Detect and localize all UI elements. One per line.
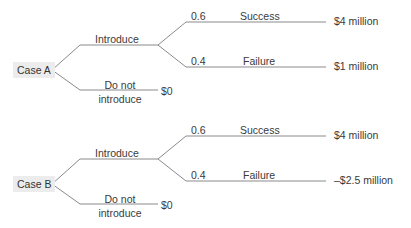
prob-success-a: 0.6 bbox=[191, 10, 206, 22]
do-not-label-a: Do not bbox=[95, 79, 145, 91]
failure-label-a: Failure bbox=[243, 55, 275, 67]
payoff-failure-a: $1 million bbox=[334, 60, 378, 72]
payoff-success-b: $4 million bbox=[334, 129, 378, 141]
introduce-branch-label-b: Introduce bbox=[95, 147, 139, 159]
prob-failure-a: 0.4 bbox=[191, 55, 206, 67]
introduce-label-a: introduce bbox=[95, 93, 145, 105]
introduce-branch-label-a: Introduce bbox=[95, 33, 139, 45]
case-a-node: Case A bbox=[13, 62, 55, 78]
prob-failure-b: 0.4 bbox=[191, 169, 206, 181]
payoff-success-a: $4 million bbox=[334, 15, 378, 27]
prob-success-b: 0.6 bbox=[191, 124, 206, 136]
decision-tree-lines bbox=[0, 0, 411, 228]
payoff-failure-b: –$2.5 million bbox=[334, 174, 393, 186]
introduce-label-b: introduce bbox=[95, 207, 145, 219]
case-b-node: Case B bbox=[13, 176, 55, 192]
payoff-do-not-a: $0 bbox=[161, 85, 173, 97]
do-not-label-b: Do not bbox=[95, 193, 145, 205]
failure-label-b: Failure bbox=[243, 169, 275, 181]
success-label-a: Success bbox=[240, 10, 280, 22]
success-label-b: Success bbox=[240, 124, 280, 136]
payoff-do-not-b: $0 bbox=[161, 199, 173, 211]
